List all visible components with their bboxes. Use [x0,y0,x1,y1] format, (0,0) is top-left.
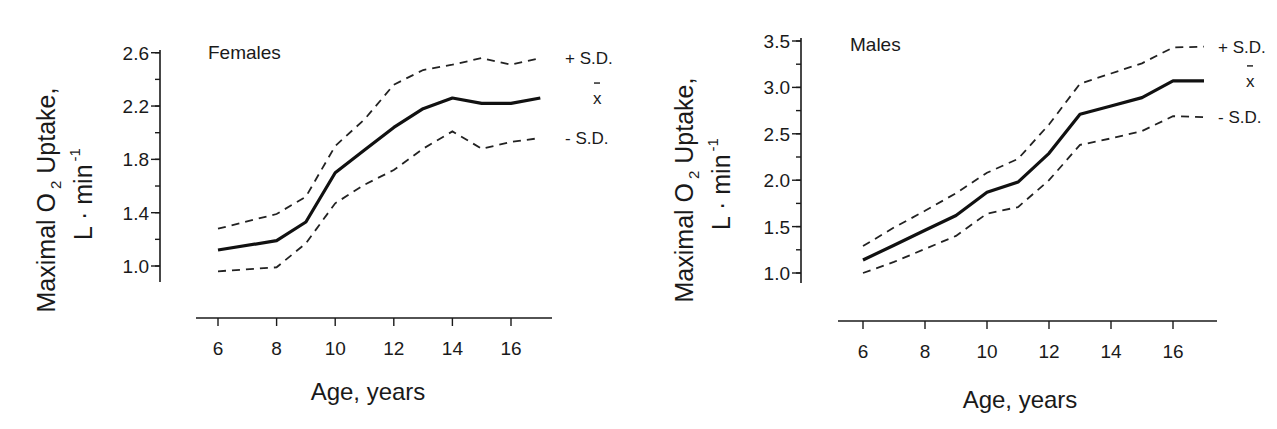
y-tick-label: 2.0 [764,170,790,191]
mean-line [218,98,540,250]
minus-sd-line [218,131,540,271]
y-tick-label: 1.8 [123,149,149,170]
male-vo2-chart: 1.01.52.02.53.03.56810121416+ S.D.x- S.D… [640,0,1277,429]
x-tick-label: 14 [1100,341,1122,362]
mean-label: x [593,89,602,108]
plus-sd-label: + S.D. [565,49,613,68]
x-tick-label: 14 [442,338,464,359]
panel-title: Females [208,42,281,63]
y-tick-label: 3.5 [764,31,790,52]
x-tick-label: 16 [500,338,521,359]
y-tick-label: 1.0 [123,256,149,277]
female-chart-panel: 1.01.41.82.22.66810121416+ S.D.x- S.D.Fe… [0,0,640,429]
x-tick-label: 10 [325,338,346,359]
x-tick-label: 8 [271,338,282,359]
y-axis-units-label: L · min-1 [704,138,735,230]
x-tick-label: 8 [920,341,931,362]
y-tick-label: 1.0 [764,263,790,284]
x-tick-label: 12 [383,338,404,359]
panel-title: Males [850,34,901,55]
x-axis-label: Age, years [963,386,1078,413]
female-vo2-chart: 1.01.41.82.22.66810121416+ S.D.x- S.D.Fe… [0,0,640,429]
x-tick-label: 10 [976,341,997,362]
plus-sd-label: + S.D. [1218,38,1266,57]
y-tick-label: 2.2 [123,96,149,117]
minus-sd-line [863,116,1204,273]
male-chart-panel: 1.01.52.02.53.03.56810121416+ S.D.x- S.D… [640,0,1277,429]
y-axis-label: Maximal O2 Uptake, [32,88,64,313]
minus-sd-label: - S.D. [1218,108,1261,127]
y-tick-label: 2.5 [764,124,790,145]
y-tick-label: 3.0 [764,77,790,98]
y-tick-label: 1.5 [764,217,790,238]
x-axis-label: Age, years [311,378,426,405]
x-tick-label: 6 [858,341,869,362]
mean-label: x [1246,72,1255,91]
plus-sd-line [218,58,540,229]
y-tick-label: 2.6 [123,43,149,64]
x-tick-label: 12 [1038,341,1059,362]
y-axis-units-label: L · min-1 [66,148,97,240]
x-tick-label: 6 [213,338,224,359]
plus-sd-line [863,47,1204,247]
minus-sd-label: - S.D. [565,129,608,148]
mean-line [863,81,1204,260]
y-axis-label: Maximal O2 Uptake, [670,78,702,303]
y-tick-label: 1.4 [123,203,150,224]
x-tick-label: 16 [1162,341,1183,362]
